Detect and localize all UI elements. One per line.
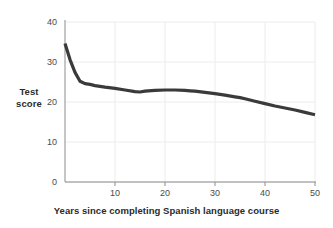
x-tick-label-50: 50 (310, 188, 320, 198)
grid-lines (65, 22, 315, 182)
y-tick-label-0: 0 (52, 177, 57, 187)
axis-lines (65, 20, 316, 182)
x-axis-title: Years since completing Spanish language … (0, 205, 333, 216)
x-axis-ticks (115, 182, 315, 186)
data-series-line-test-score (65, 44, 315, 115)
y-axis-tick-labels: 0 10 20 30 40 (47, 17, 57, 187)
chart-plot-area: 0 10 20 30 40 10 20 30 40 50 (0, 0, 333, 228)
y-tick-label-40: 40 (47, 17, 57, 27)
x-tick-label-10: 10 (110, 188, 120, 198)
x-tick-label-40: 40 (260, 188, 270, 198)
y-tick-label-20: 20 (47, 97, 57, 107)
x-tick-label-20: 20 (160, 188, 170, 198)
chart-container: Test score 0 10 (0, 0, 333, 228)
x-tick-label-30: 30 (210, 188, 220, 198)
y-tick-label-10: 10 (47, 137, 57, 147)
x-axis-tick-labels: 10 20 30 40 50 (110, 188, 320, 198)
y-tick-label-30: 30 (47, 57, 57, 67)
